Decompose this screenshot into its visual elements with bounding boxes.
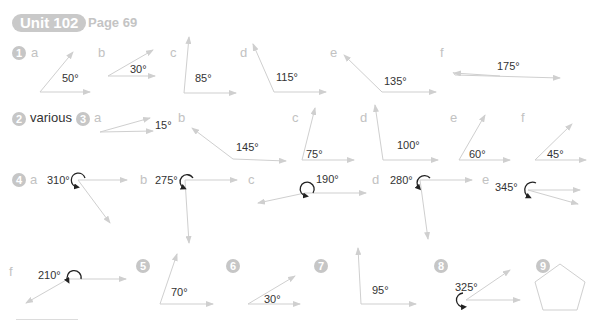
q4a-label: a xyxy=(30,172,37,187)
q3b-angle: 145° xyxy=(236,141,259,153)
q3e-label: e xyxy=(450,110,457,125)
q1a-angle: 50° xyxy=(62,72,79,84)
q8-angle: 325° xyxy=(455,281,478,293)
q1f-angle-diagram xyxy=(453,72,560,78)
q4e-angle-diagram xyxy=(528,190,580,204)
q3f-label: f xyxy=(521,110,525,125)
q4b-angle-diagram xyxy=(185,180,237,243)
q4f-angle-diagram xyxy=(26,279,126,303)
q4e-label: e xyxy=(482,172,489,187)
question-9-badge: 9 xyxy=(536,259,550,273)
q3c-label: c xyxy=(292,110,299,125)
q6-angle: 30° xyxy=(264,293,281,305)
q1d-angle-diagram xyxy=(253,44,326,92)
question-8-badge: 8 xyxy=(434,259,448,273)
question-6-badge: 6 xyxy=(226,259,240,273)
angle-diagrams xyxy=(0,0,608,323)
q4c-label: c xyxy=(248,172,255,187)
question-5-badge: 5 xyxy=(136,259,150,273)
question-2-badge: 2 xyxy=(12,112,26,126)
q1e-label: e xyxy=(330,45,337,60)
q3d-label: d xyxy=(360,110,367,125)
q4c-angle: 190° xyxy=(316,173,339,185)
q1f-label: f xyxy=(440,45,444,60)
question-1-badge: 1 xyxy=(12,46,26,60)
q7-angle: 95° xyxy=(372,284,389,296)
q4c-rotation-arc xyxy=(300,182,314,196)
q4f-label: f xyxy=(9,264,13,279)
q4b-angle: 275° xyxy=(155,174,178,186)
question-3-badge: 3 xyxy=(76,112,90,126)
q3c-angle: 75° xyxy=(306,148,323,160)
q4a-angle-diagram xyxy=(78,180,127,223)
q4f-angle: 210° xyxy=(38,269,61,281)
q3d-angle: 100° xyxy=(397,139,420,151)
q3a-label: a xyxy=(94,110,101,125)
q1c-angle-diagram xyxy=(184,37,236,93)
bottom-divider xyxy=(16,319,78,320)
q4e-angle: 345° xyxy=(495,181,518,193)
q1c-label: c xyxy=(170,45,177,60)
q4a-angle: 310° xyxy=(47,174,70,186)
q4d-angle: 280° xyxy=(390,174,413,186)
q1a-label: a xyxy=(31,45,38,60)
question-7-badge: 7 xyxy=(314,259,328,273)
q5-angle: 70° xyxy=(171,286,188,298)
q1c-angle: 85° xyxy=(195,72,212,84)
q1e-angle: 135° xyxy=(384,75,407,87)
q3d-angle-diagram xyxy=(375,105,438,160)
q3a-angle: 15° xyxy=(155,119,172,131)
q4d-rotation-arc xyxy=(417,176,430,188)
q1b-angle: 30° xyxy=(130,63,147,75)
question-4-badge: 4 xyxy=(12,173,26,187)
q3f-angle: 45° xyxy=(547,148,564,160)
q4b-label: b xyxy=(140,172,147,187)
q3b-label: b xyxy=(178,110,185,125)
q1f-angle: 175° xyxy=(497,60,520,72)
q1d-angle: 115° xyxy=(276,71,298,83)
q4d-angle-diagram xyxy=(420,180,472,239)
q3a-angle-diagram xyxy=(100,118,153,132)
q1b-label: b xyxy=(98,45,105,60)
q3e-angle: 60° xyxy=(469,148,486,160)
q4d-label: d xyxy=(372,172,379,187)
q2-answer: various xyxy=(30,110,72,125)
q1d-label: d xyxy=(240,45,247,60)
q8-rotation-arc xyxy=(456,293,464,307)
q4c-angle-diagram xyxy=(258,193,366,203)
q4b-rotation-arc xyxy=(180,175,193,188)
